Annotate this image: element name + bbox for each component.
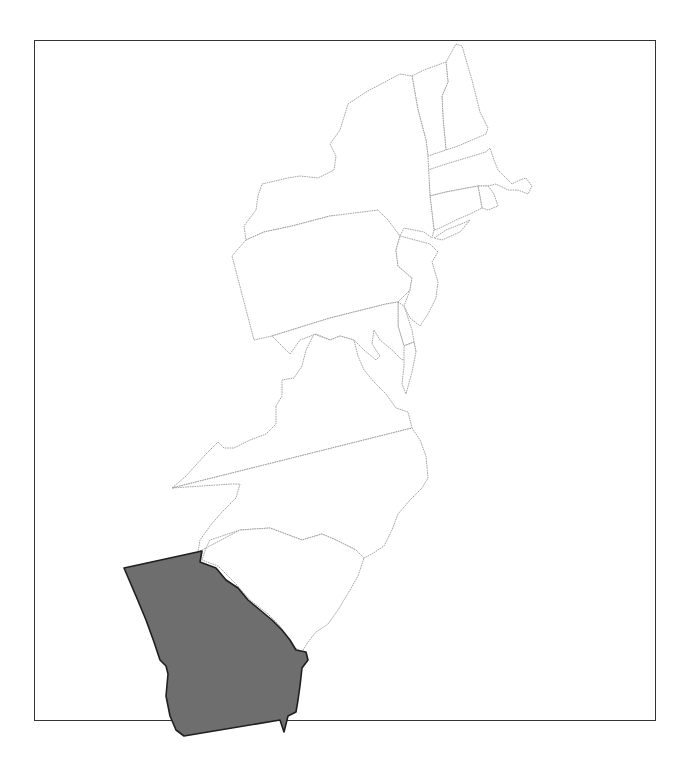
colonies-map xyxy=(0,0,688,774)
region-eastern-shore xyxy=(402,342,416,394)
region-new-hampshire xyxy=(442,44,488,150)
